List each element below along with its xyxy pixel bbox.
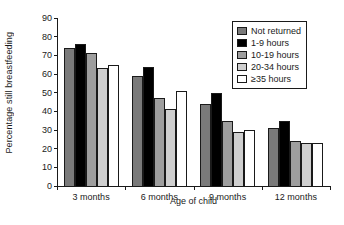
y-axis-tick-label: 50 (42, 88, 54, 98)
bar (211, 93, 222, 186)
bar (222, 121, 233, 186)
x-axis-tick-mark (125, 186, 126, 190)
bar (108, 65, 119, 186)
x-axis-title: Age of child (57, 196, 330, 206)
x-axis-tick-mark (262, 186, 263, 190)
bar-group (57, 18, 125, 186)
y-axis-tick-label: 40 (42, 106, 54, 116)
legend-label: 10-19 hours (251, 50, 299, 60)
y-axis-tick: 80 (42, 32, 57, 42)
y-axis-tick-label: 90 (42, 13, 54, 23)
bar (233, 132, 244, 186)
y-axis-tick: 0 (47, 181, 57, 191)
bar (132, 76, 143, 186)
y-axis-tick: 10 (42, 162, 57, 172)
bar (268, 128, 279, 186)
legend-swatch (237, 75, 247, 83)
y-axis-tick: 60 (42, 69, 57, 79)
legend-swatch (237, 51, 247, 59)
legend-swatch (237, 27, 247, 35)
bar (176, 91, 187, 186)
legend-label: 1-9 hours (251, 38, 289, 48)
bar (165, 109, 176, 186)
bar (64, 48, 75, 186)
legend-item: 1-9 hours (237, 37, 301, 49)
y-axis-tick: 40 (42, 106, 57, 116)
bar (312, 143, 323, 186)
y-axis-tick: 30 (42, 125, 57, 135)
y-axis-tick-label: 0 (47, 181, 54, 191)
y-axis-tick-label: 20 (42, 144, 54, 154)
bar (244, 130, 255, 186)
legend-item: Not returned (237, 25, 301, 37)
y-axis-tick: 70 (42, 50, 57, 60)
bar-group (125, 18, 193, 186)
legend-item: 20-34 hours (237, 61, 301, 73)
y-axis-tick-label: 30 (42, 125, 54, 135)
x-axis-tick-mark (57, 186, 58, 190)
y-axis-tick: 20 (42, 144, 57, 154)
legend-label: 20-34 hours (251, 62, 299, 72)
y-axis-tick-label: 70 (42, 50, 54, 60)
y-axis-tick-label: 10 (42, 162, 54, 172)
y-axis-tick: 90 (42, 13, 57, 23)
bar-chart: Percentage still breastfeeding 010203040… (0, 0, 344, 225)
y-axis-tick-label: 60 (42, 69, 54, 79)
legend: Not returned1-9 hours10-19 hours20-34 ho… (232, 21, 307, 89)
legend-item: 10-19 hours (237, 49, 301, 61)
bar (86, 53, 97, 186)
y-axis-title: Percentage still breastfeeding (0, 0, 18, 186)
bar (97, 68, 108, 186)
y-axis-tick-label: 80 (42, 32, 54, 42)
legend-swatch (237, 39, 247, 47)
bar (154, 98, 165, 186)
legend-label: Not returned (251, 26, 301, 36)
bar (279, 121, 290, 186)
bar (75, 44, 86, 186)
bar (290, 141, 301, 186)
x-axis-tick-mark (194, 186, 195, 190)
legend-item: ≥35 hours (237, 73, 301, 85)
x-axis-tick-mark (330, 186, 331, 190)
y-axis-tick: 50 (42, 88, 57, 98)
legend-swatch (237, 63, 247, 71)
y-axis-title-text: Percentage still breastfeeding (4, 32, 14, 154)
legend-label: ≥35 hours (251, 74, 291, 84)
bar (143, 67, 154, 186)
bar (200, 104, 211, 186)
bar (301, 143, 312, 186)
